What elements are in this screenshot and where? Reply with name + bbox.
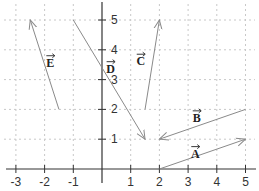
x-tick-label: 1 [127,175,134,189]
axis-ticks: -3-2-11234512345 [11,13,250,189]
x-tick-label: 4 [213,175,220,189]
x-tick-label: -1 [68,175,79,189]
vector-label-b: B [193,109,202,125]
vector-label-text: C [136,54,145,68]
x-tick-label: -2 [39,175,50,189]
vector-c [145,20,159,109]
vector-label-text: B [193,111,201,125]
x-tick-label: 2 [156,175,163,189]
vector-label-d: D [106,60,115,76]
x-tick-label: 3 [185,175,192,189]
vector-b [159,109,245,139]
grid-lines [4,4,255,169]
vectors [30,20,245,169]
vector-label-text: A [191,147,200,161]
vector-label-e: E [46,54,55,70]
vector-label-c: C [136,52,145,68]
y-tick-label: 1 [111,132,118,146]
y-tick-label: 4 [111,43,118,57]
y-tick-label: 5 [111,13,118,27]
vector-label-text: E [46,56,54,70]
vector-label-a: A [191,145,200,161]
x-tick-label: 5 [242,175,249,189]
x-tick-label: -3 [11,175,22,189]
vector-label-text: D [106,62,115,76]
vector-a [159,139,245,169]
vector-diagram: -3-2-11234512345 ABCDE [0,0,259,191]
y-tick-label: 2 [111,102,118,116]
vector-labels: ABCDE [46,52,201,160]
